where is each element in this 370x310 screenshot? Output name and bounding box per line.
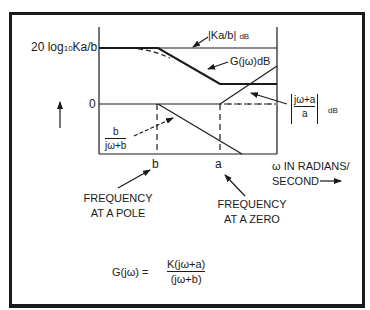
y-top-label-main: 20 log bbox=[31, 40, 64, 54]
zero-term-fraction: jω+a a bbox=[294, 94, 315, 119]
ka-b-leader-arrow bbox=[193, 37, 208, 47]
zero-freq-arrow bbox=[225, 175, 245, 196]
pole-annotation-line2: AT A POLE bbox=[78, 207, 158, 220]
zero-term-unit: dB bbox=[328, 104, 338, 117]
y-top-label-subscript: 10 bbox=[64, 44, 73, 53]
pole-annotation: FREQUENCY AT A POLE bbox=[78, 192, 158, 220]
y-top-label-end: Ka/b bbox=[73, 40, 98, 54]
zero-annotation-line1: FREQUENCY bbox=[210, 198, 294, 211]
pole-term-numerator: b bbox=[113, 126, 119, 137]
pole-term-fraction: b jω+b bbox=[105, 126, 126, 151]
ka-b-unit: dB bbox=[239, 32, 249, 41]
zero-term-numerator: jω+a bbox=[294, 94, 315, 105]
x-axis-label-line1: ω IN RADIANS/ bbox=[272, 160, 350, 173]
pole-freq-arrow bbox=[118, 170, 150, 188]
zero-annotation: FREQUENCY AT A ZERO bbox=[210, 198, 294, 226]
pole-annotation-line1: FREQUENCY bbox=[78, 192, 158, 205]
pole-term-line bbox=[158, 104, 242, 154]
zero-annotation-line2: AT A ZERO bbox=[210, 213, 294, 226]
ka-b-text: |Ka/b| bbox=[208, 29, 236, 41]
g-jw-label: G(jω)dB bbox=[230, 55, 270, 68]
y-zero-label: 0 bbox=[89, 98, 96, 111]
equation-fraction: K(jω+a) (jω+b) bbox=[167, 258, 205, 285]
ka-b-label: |Ka/b| dB bbox=[208, 29, 249, 43]
g-jw-actual-curve bbox=[138, 49, 170, 58]
pole-term-denominator: jω+b bbox=[105, 140, 126, 151]
y-top-label: 20 log10Ka/b bbox=[31, 41, 97, 55]
equation-denominator: (jω+b) bbox=[171, 273, 202, 285]
pole-term-leader-arrow bbox=[134, 118, 173, 136]
zero-term-leader-arrow bbox=[251, 93, 287, 104]
x-axis-label-line2: SECOND bbox=[272, 175, 319, 188]
zero-term-abs: jω+a a bbox=[291, 94, 318, 124]
g-jw-leader-arrow bbox=[208, 62, 228, 69]
zero-term-denominator: a bbox=[302, 108, 308, 119]
x-tick-b: b bbox=[152, 158, 159, 171]
equation-lhs: G(jω) = bbox=[112, 266, 148, 279]
equation-numerator: K(jω+a) bbox=[167, 258, 205, 270]
x-tick-a: a bbox=[215, 158, 222, 171]
